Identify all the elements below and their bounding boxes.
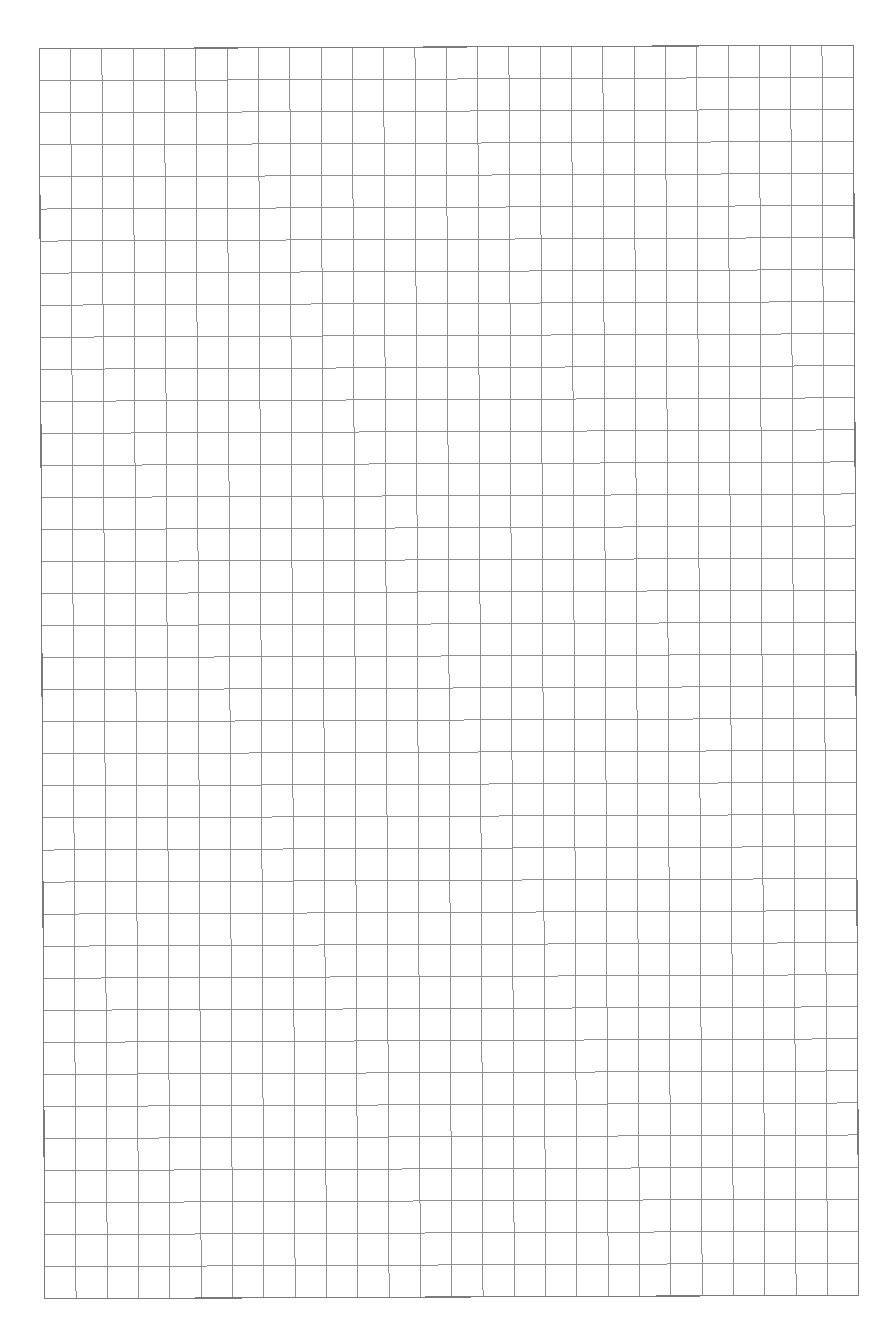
grid-vertical-line xyxy=(290,48,295,1298)
grid-vertical-line xyxy=(165,48,170,1298)
grid-vertical-line xyxy=(415,47,420,1297)
grid-vertical-line xyxy=(822,45,827,1295)
grid-vertical-line xyxy=(102,49,107,1299)
grid-vertical-line xyxy=(697,46,702,1296)
grid-vertical-line xyxy=(71,49,76,1299)
grid-vertical-line xyxy=(509,47,514,1297)
grid-vertical-line xyxy=(352,47,357,1297)
grid-group xyxy=(39,45,858,1299)
grid-vertical-line xyxy=(728,46,733,1296)
grid-lines xyxy=(0,0,890,1341)
grid-vertical-line xyxy=(665,46,670,1296)
graph-paper-page xyxy=(0,0,890,1341)
grid-sheet xyxy=(0,0,890,1341)
grid-vertical-line xyxy=(446,47,451,1297)
grid-vertical-line xyxy=(572,46,577,1296)
grid-vertical-line xyxy=(133,48,138,1298)
grid-vertical-line xyxy=(540,47,545,1297)
grid-vertical-line xyxy=(603,46,608,1296)
grid-vertical-line xyxy=(791,46,796,1296)
grid-vertical-line xyxy=(384,47,389,1297)
grid-vertical-line xyxy=(634,46,639,1296)
grid-vertical-line xyxy=(258,48,263,1298)
grid-vertical-line xyxy=(759,46,764,1296)
grid-vertical-line xyxy=(321,48,326,1298)
grid-vertical-line xyxy=(227,48,232,1298)
grid-vertical-line xyxy=(478,47,483,1297)
grid-vertical-line xyxy=(196,48,201,1298)
